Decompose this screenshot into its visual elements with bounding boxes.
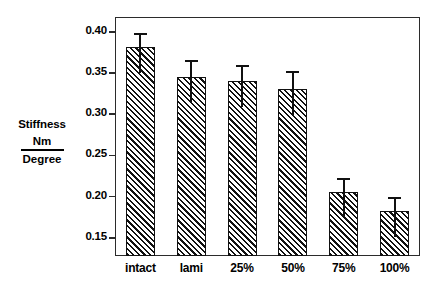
error-bar-stem [139, 33, 141, 74]
error-bar-cap [134, 33, 147, 35]
error-bar-cap [388, 197, 401, 199]
error-bar-stem [394, 197, 396, 236]
bar-lami [177, 77, 206, 256]
error-bar-cap [236, 65, 249, 67]
error-bar-stem [190, 60, 192, 103]
chart-figure: Stiffness Nm Degree 0.150.200.250.300.35… [0, 0, 430, 293]
bars-layer [0, 0, 430, 293]
x-tick-label: 100% [365, 261, 425, 275]
bar-25pct [228, 81, 257, 256]
error-bar-stem [241, 65, 243, 107]
error-bar-stem [292, 71, 294, 115]
error-bar-stem [343, 178, 345, 218]
error-bar-cap [337, 178, 350, 180]
error-bar-cap [185, 60, 198, 62]
error-bar-cap [286, 71, 299, 73]
bar-intact [126, 47, 155, 256]
